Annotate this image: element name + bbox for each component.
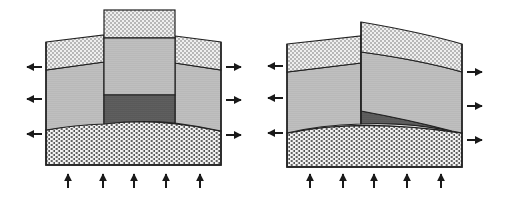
central-block-dark-wedge	[104, 95, 175, 124]
left-basement-layer	[46, 121, 221, 165]
crustal-extension-diagram	[0, 0, 506, 201]
right-panel	[268, 22, 482, 188]
central-block-upper-layer	[104, 10, 175, 38]
central-block-middle-layer	[104, 38, 175, 95]
left-shoulder-middle-layer	[46, 62, 104, 130]
left-panel	[27, 10, 241, 188]
footwall-middle-layer	[287, 63, 361, 133]
right-shoulder-middle-layer	[175, 63, 221, 131]
right-basement-layer	[287, 126, 462, 168]
diagram-canvas	[0, 0, 506, 201]
